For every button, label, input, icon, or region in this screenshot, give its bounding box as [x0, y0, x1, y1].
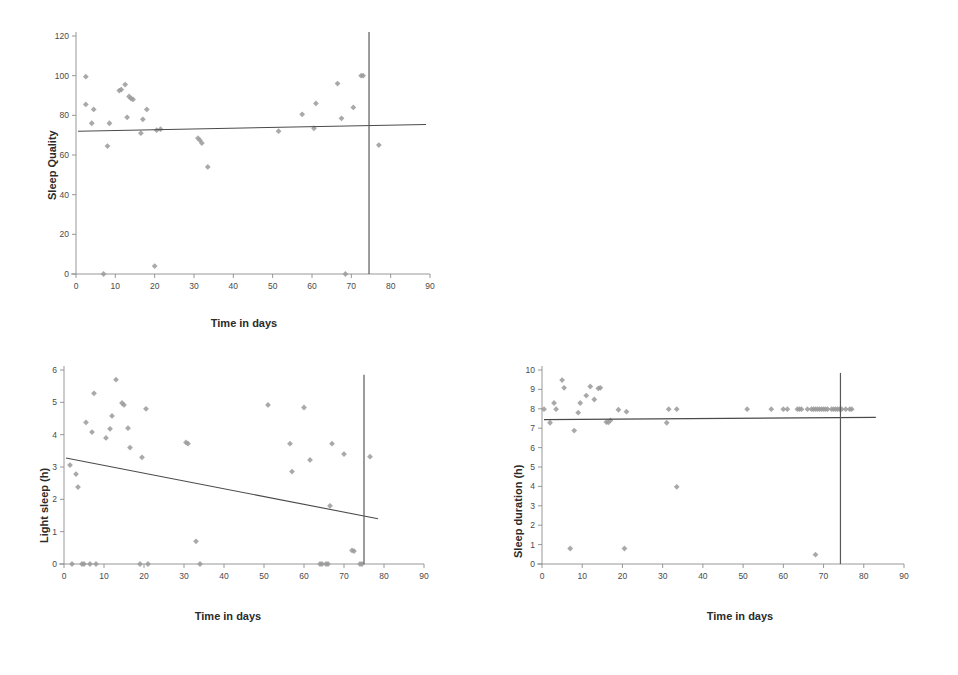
data-point-marker: [744, 406, 750, 412]
data-point-marker: [144, 106, 150, 112]
data-point-marker: [341, 451, 347, 457]
trend-line: [78, 124, 426, 131]
x-axis-title-sleep-duration: Time in days: [640, 610, 840, 622]
data-point-marker: [138, 130, 144, 136]
x-tick-label: 40: [698, 571, 708, 581]
data-point-marker: [109, 413, 115, 419]
x-tick-label: 90: [899, 571, 909, 581]
y-tick-label: 120: [55, 31, 69, 41]
x-tick-label: 0: [540, 571, 545, 581]
data-point-marker: [299, 111, 305, 117]
x-tick-label: 70: [347, 281, 357, 291]
x-tick-label: 30: [189, 281, 199, 291]
data-point-marker: [124, 114, 130, 120]
data-point-marker: [193, 538, 199, 544]
x-tick-label: 80: [859, 571, 869, 581]
data-point-marker: [89, 429, 95, 435]
x-tick-label: 40: [219, 571, 229, 581]
y-tick-label: 6: [530, 443, 535, 453]
data-point-marker: [559, 377, 565, 383]
x-tick-label: 30: [658, 571, 668, 581]
data-point-marker: [276, 128, 282, 134]
data-point-marker: [113, 377, 119, 383]
data-point-marker: [101, 271, 107, 277]
y-tick-label: 2: [52, 494, 57, 504]
y-tick-label: 0: [530, 559, 535, 569]
y-tick-label: 3: [52, 462, 57, 472]
y-tick-label: 80: [60, 110, 70, 120]
x-tick-label: 50: [259, 571, 269, 581]
data-point-marker: [289, 469, 295, 475]
x-tick-label: 0: [74, 281, 79, 291]
data-point-marker: [73, 471, 79, 477]
data-point-group: [541, 377, 855, 557]
data-point-marker: [664, 420, 670, 426]
y-tick-label: 100: [55, 71, 69, 81]
x-tick-label: 60: [779, 571, 789, 581]
data-point-marker: [666, 406, 672, 412]
data-point-marker: [287, 441, 293, 447]
data-point-marker: [83, 419, 89, 425]
data-point-marker: [125, 425, 131, 431]
data-point-marker: [67, 462, 73, 468]
y-tick-label: 6: [52, 365, 57, 375]
y-tick-label: 0: [52, 559, 57, 569]
y-tick-label: 1: [52, 527, 57, 537]
x-tick-label: 50: [738, 571, 748, 581]
data-point-marker: [107, 120, 113, 126]
x-tick-label: 20: [150, 281, 160, 291]
data-point-marker: [343, 271, 349, 277]
x-tick-label: 80: [386, 281, 396, 291]
x-tick-label: 20: [139, 571, 149, 581]
panel-sleep-duration: Sleep duration (h) 012345678910010203040…: [490, 358, 930, 658]
data-point-marker: [103, 435, 109, 441]
data-point-marker: [571, 428, 577, 434]
x-tick-label: 70: [819, 571, 829, 581]
y-tick-label: 5: [530, 462, 535, 472]
x-tick-label: 60: [299, 571, 309, 581]
trend-line: [66, 458, 378, 519]
data-point-marker: [265, 402, 271, 408]
y-tick-label: 7: [530, 423, 535, 433]
data-point-marker: [143, 406, 149, 412]
data-point-marker: [335, 81, 341, 87]
data-point-marker: [367, 454, 373, 460]
y-tick-label: 8: [530, 404, 535, 414]
data-point-marker: [587, 384, 593, 390]
data-point-marker: [561, 385, 567, 391]
x-tick-label: 60: [307, 281, 317, 291]
data-point-marker: [89, 120, 95, 126]
y-tick-label: 20: [60, 229, 70, 239]
data-point-marker: [139, 454, 145, 460]
data-point-group: [67, 377, 373, 567]
x-tick-label: 10: [99, 571, 109, 581]
x-axis-title-sleep-quality: Time in days: [144, 317, 344, 329]
data-point-marker: [577, 400, 583, 406]
data-point-group: [83, 73, 382, 277]
y-tick-label: 3: [530, 501, 535, 511]
data-point-marker: [575, 410, 581, 416]
data-point-marker: [567, 546, 573, 552]
x-tick-label: 30: [179, 571, 189, 581]
y-tick-label: 4: [530, 481, 535, 491]
x-axis-title-light-sleep: Time in days: [128, 610, 328, 622]
panel-light-sleep: Light sleep (h) 012345601020304050607080…: [18, 358, 448, 658]
y-axis-title-sleep-duration: Sleep duration (h): [512, 465, 524, 559]
data-point-marker: [140, 116, 146, 122]
y-tick-label: 10: [526, 365, 536, 375]
data-point-marker: [83, 74, 89, 80]
y-tick-label: 60: [60, 150, 70, 160]
data-point-marker: [768, 406, 774, 412]
x-tick-label: 70: [339, 571, 349, 581]
data-point-marker: [205, 164, 211, 170]
y-axis-title-sleep-quality: Sleep Quality: [46, 130, 58, 200]
x-tick-label: 40: [229, 281, 239, 291]
data-point-marker: [591, 397, 597, 403]
data-point-marker: [137, 561, 143, 567]
data-point-marker: [674, 406, 680, 412]
data-point-marker: [339, 115, 345, 121]
x-tick-label: 50: [268, 281, 278, 291]
data-point-marker: [83, 102, 89, 108]
data-point-marker: [547, 420, 553, 426]
x-tick-label: 90: [425, 281, 435, 291]
